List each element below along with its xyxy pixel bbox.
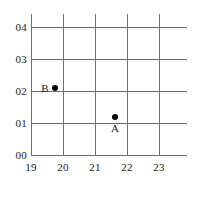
point-label-b: B	[38, 82, 52, 94]
grid-line-vertical-23	[159, 14, 160, 156]
y-axis-tick-label-03: 03	[5, 53, 27, 65]
grid-line-horizontal-00	[31, 155, 187, 156]
x-axis-tick-label-19: 19	[19, 161, 43, 173]
grid-line-vertical-20	[63, 14, 64, 156]
grid-line-vertical-22	[127, 14, 128, 156]
grid-reference-chart: 04 03 02 01 00 19 20 21 22 23 B A	[0, 0, 200, 201]
y-axis-tick-label-01: 01	[5, 117, 27, 129]
x-axis-tick-label-22: 22	[115, 161, 139, 173]
y-axis-tick-label-04: 04	[5, 21, 27, 33]
grid-line-vertical-19	[31, 14, 32, 156]
grid-line-horizontal-03	[31, 59, 187, 60]
point-marker-a	[112, 114, 118, 120]
point-label-a: A	[108, 122, 122, 134]
y-axis-tick-label-00: 00	[5, 149, 27, 161]
x-axis-tick-label-20: 20	[51, 161, 75, 173]
grid-line-horizontal-04	[31, 27, 187, 28]
grid-line-horizontal-02	[31, 91, 187, 92]
x-axis-tick-label-21: 21	[83, 161, 107, 173]
grid-line-vertical-21	[95, 14, 96, 156]
x-axis-tick-label-23: 23	[147, 161, 171, 173]
point-marker-b	[52, 85, 58, 91]
y-axis-tick-label-02: 02	[5, 85, 27, 97]
